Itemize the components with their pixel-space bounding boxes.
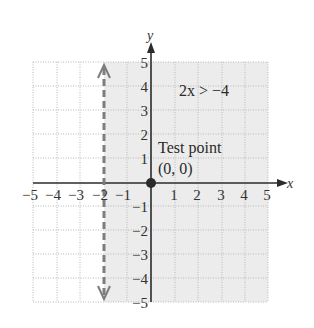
svg-text:−1: −1 <box>115 187 131 203</box>
svg-text:1: 1 <box>141 151 149 167</box>
svg-text:−5: −5 <box>132 295 148 311</box>
svg-text:2: 2 <box>193 187 201 203</box>
svg-text:−1: −1 <box>132 199 148 215</box>
test-point-label: Test point <box>158 139 222 157</box>
test-point-marker <box>146 178 156 188</box>
svg-text:−4: −4 <box>45 187 61 203</box>
svg-text:4: 4 <box>240 187 248 203</box>
svg-text:−3: −3 <box>68 187 84 203</box>
inequality-graph: x y −5 −4 −3 −2 −1 1 2 3 4 5 5 4 3 2 1 −… <box>0 0 314 328</box>
svg-text:1: 1 <box>170 187 178 203</box>
svg-text:5: 5 <box>141 55 149 71</box>
svg-text:4: 4 <box>141 79 149 95</box>
test-point-coords: (0, 0) <box>158 160 193 178</box>
svg-text:−2: −2 <box>92 187 108 203</box>
x-axis-label: x <box>286 176 294 191</box>
svg-text:−3: −3 <box>132 247 148 263</box>
y-axis-label: y <box>145 28 154 43</box>
svg-text:3: 3 <box>141 103 149 119</box>
svg-text:3: 3 <box>217 187 225 203</box>
svg-text:−4: −4 <box>132 271 148 287</box>
inequality-label: 2x > −4 <box>179 82 229 99</box>
svg-text:−5: −5 <box>22 187 38 203</box>
svg-text:5: 5 <box>263 187 271 203</box>
svg-text:2: 2 <box>141 127 149 143</box>
svg-text:−2: −2 <box>132 223 148 239</box>
